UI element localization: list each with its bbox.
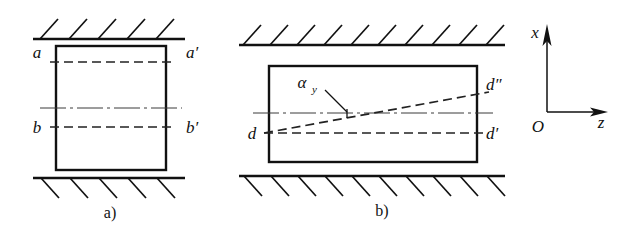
panel-b-angle-subscript: y <box>311 83 317 95</box>
panel-a-label-b: b <box>33 118 42 137</box>
panel-b-caption: b) <box>375 202 388 220</box>
panel-b-label-d: d <box>248 124 257 143</box>
technical-figure: a a′ b b′ a) <box>0 0 642 231</box>
x-axis-label: x <box>530 23 539 42</box>
panel-b-label-d-prime: d′ <box>486 124 499 143</box>
panel-b-group: α y d d″ d′ b) <box>239 25 505 220</box>
panel-a-bottom-hatching <box>33 178 185 198</box>
z-axis-label: z <box>597 113 605 132</box>
coordinate-axes-group: x z O <box>530 23 608 136</box>
origin-label: O <box>532 117 544 136</box>
panel-b-top-hatching <box>239 25 505 45</box>
panel-b-bottom-hatching <box>239 176 505 196</box>
panel-a-group: a a′ b b′ a) <box>33 19 199 222</box>
figure-canvas: a a′ b b′ a) <box>0 0 642 231</box>
panel-a-label-b-prime: b′ <box>186 118 199 137</box>
panel-b-angle-symbol: α <box>298 73 308 92</box>
panel-a-label-a: a <box>33 43 42 62</box>
panel-a-caption: a) <box>104 204 116 222</box>
panel-b-angle-leader-line <box>325 90 347 112</box>
panel-a-top-hatching <box>33 19 185 39</box>
panel-a-label-a-prime: a′ <box>186 43 199 62</box>
panel-b-label-d-double-prime: d″ <box>486 75 503 94</box>
panel-b-angle-label: α y <box>298 73 317 95</box>
